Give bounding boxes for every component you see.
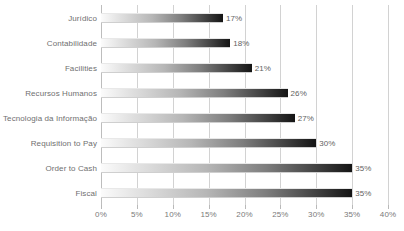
bar-value-label: 17% [226, 13, 242, 22]
chart-row: Requisition to Pay30% [0, 130, 404, 155]
bar [101, 63, 252, 73]
bar [101, 163, 352, 173]
bar-value-label: 35% [355, 188, 371, 197]
bar-value-label: 18% [233, 38, 249, 47]
chart-row: Facilities21% [0, 55, 404, 80]
category-axis-label: Jurídico [68, 13, 97, 22]
bar-value-label: 35% [355, 163, 371, 172]
bar [101, 138, 316, 148]
bar [101, 113, 295, 123]
chart-plot-area: Jurídico17%Contabilidade18%Facilities21%… [0, 0, 404, 231]
category-axis-label: Tecnologia da Informação [3, 113, 97, 122]
chart-row: Order to Cash35% [0, 155, 404, 180]
bar-value-label: 21% [255, 63, 271, 72]
bar [101, 188, 352, 198]
bar [101, 38, 230, 48]
category-axis-label: Recursos Humanos [25, 88, 97, 97]
category-axis-label: Requisition to Pay [31, 138, 97, 147]
bar-value-label: 27% [298, 113, 314, 122]
chart-row: Jurídico17% [0, 5, 404, 30]
chart-row: Recursos Humanos26% [0, 80, 404, 105]
category-axis-label: Facilities [65, 63, 97, 72]
chart-row: Fiscal35% [0, 180, 404, 205]
category-axis-label: Order to Cash [45, 163, 97, 172]
bar [101, 13, 223, 23]
bar-value-label: 26% [291, 88, 307, 97]
chart-row: Contabilidade18% [0, 30, 404, 55]
category-axis-label: Contabilidade [47, 38, 97, 47]
horizontal-bar-chart: 0%5%10%15%20%25%30%35%40% Jurídico17%Con… [0, 0, 404, 231]
bar-value-label: 30% [319, 138, 335, 147]
category-axis-label: Fiscal [76, 188, 98, 197]
bar [101, 88, 288, 98]
chart-row: Tecnologia da Informação27% [0, 105, 404, 130]
